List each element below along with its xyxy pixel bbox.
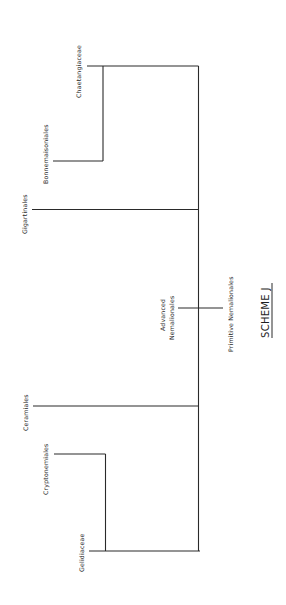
label-advanced-nemalionales-line2: Nemalionales	[168, 296, 175, 340]
scheme-title: SCHEME J	[260, 287, 271, 338]
label-cryptonemiales: Cryptonemiales	[42, 444, 50, 495]
label-primitive-nemalionales: Primitive Nemalionales	[227, 276, 234, 352]
label-gelidiaceae: Gelidiaceae	[78, 534, 85, 573]
label-bonnemaisoniales: Bonnemaisoniales	[42, 124, 49, 184]
phylogenetic-scheme-diagram: Chaetangiaceae Bonnemaisoniales Gigartin…	[0, 0, 286, 605]
label-gigartinales: Gigartinales	[21, 194, 29, 234]
label-advanced-nemalionales-line1: Advanced	[159, 299, 166, 331]
label-ceramiales: Ceramiales	[22, 394, 29, 431]
label-chaetangiaceae: Chaetangiaceae	[75, 45, 83, 98]
